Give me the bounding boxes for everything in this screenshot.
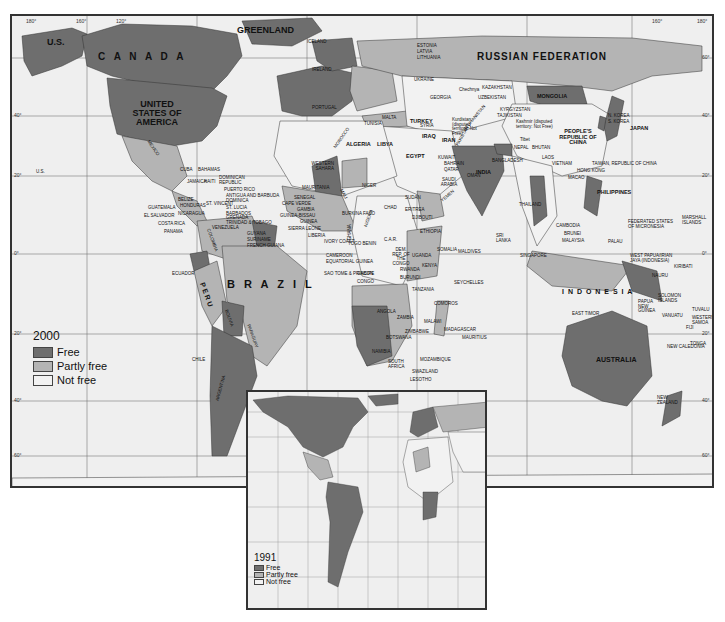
label-estonia: ESTONIA xyxy=(417,44,437,49)
legend-label: Partly free xyxy=(57,360,107,372)
label-kiribati: KIRIBATI xyxy=(674,265,692,270)
label-namibia: NAMIBIA xyxy=(372,350,391,355)
lat-tick: 0° xyxy=(14,250,19,256)
label-botswana: BOTSWANA xyxy=(386,336,412,341)
label-niger: NIGER xyxy=(362,184,376,189)
legend-label: Free xyxy=(57,346,80,358)
label-marshall-islands: MARSHALL ISLANDS xyxy=(682,216,706,225)
label-swaziland: SWAZILAND xyxy=(412,370,438,375)
label-iceland: ICELAND xyxy=(307,40,327,45)
label-kazakhstan: KAZAKHSTAN xyxy=(482,86,512,91)
label-east-timor: EAST TIMOR xyxy=(572,312,599,317)
label-ireland: IRELAND xyxy=(312,68,332,73)
label-south-africa: SOUTH AFRICA xyxy=(388,360,406,369)
legend-item-free: Free xyxy=(254,564,298,571)
lat-tick: 40° xyxy=(14,397,22,403)
swatch-free xyxy=(33,347,53,358)
label-lesotho: LESOTHO xyxy=(410,378,432,383)
lat-tick: 40° xyxy=(702,397,710,403)
inset-map-1991: 1991 Free Partly free Not free xyxy=(246,390,487,610)
label-n-korea: N. KOREA xyxy=(608,114,630,119)
lon-tick: 180° xyxy=(26,18,36,24)
legend-label: Partly free xyxy=(266,571,298,578)
bolivia xyxy=(222,301,244,336)
label-togo-benin: TOGO BENIN xyxy=(348,242,376,247)
label-congo: CONGO xyxy=(357,280,374,285)
label-vanuatu: VANUATU xyxy=(662,314,683,319)
label-tajikistan: TAJIKISTAN xyxy=(497,114,522,119)
label-georgia: GEORGIA xyxy=(430,96,451,101)
label-solomon-islands: SOLOMON ISLANDS xyxy=(658,294,680,303)
label-guatemala: GUATEMALA xyxy=(148,206,175,211)
label-australia: AUSTRALIA xyxy=(596,356,636,363)
lon-tick: 180° xyxy=(697,18,707,24)
label-somalia: SOMALIA xyxy=(437,248,457,253)
label-vietnam: VIETNAM xyxy=(552,162,572,167)
label-guinea: GUINEA xyxy=(300,220,317,225)
label-puerto-rico: PUERTO RICO xyxy=(224,188,255,193)
label-french-guiana: FRENCH GUIANA xyxy=(247,244,284,249)
label-gambia: GAMBIA xyxy=(297,208,315,213)
label-west-papua: WEST PAPUA/IRIAN JAYA (INDONESIA) xyxy=(630,254,680,263)
label-ethiopia: ETHIOPIA xyxy=(420,230,441,235)
label-us-hawaii: U.S. xyxy=(36,170,45,175)
lon-tick: 160° xyxy=(652,18,662,24)
label-sri-lanka: SRI LANKA xyxy=(496,234,510,243)
label-venezuela: VENEZUELA xyxy=(212,226,239,231)
label-libya: LIBYA xyxy=(377,142,393,148)
label-malawi: MALAWI xyxy=(424,320,442,325)
label-ghana: GHANA xyxy=(348,224,353,240)
label-new-zealand: NEW ZEALAND xyxy=(657,396,683,405)
label-st-lucia: ST. LUCIA xyxy=(226,206,247,211)
label-kenya: KENYA xyxy=(422,264,437,269)
swatch-not-free xyxy=(254,579,264,585)
label-nepal: NEPAL xyxy=(514,146,528,151)
label-png: PAPUA NEW GUINEA xyxy=(638,300,660,314)
label-fiji: FIJI xyxy=(686,326,694,331)
label-nauru: NAURU xyxy=(652,274,668,279)
swatch-partly-free xyxy=(33,361,53,372)
label-drc: DEM. REP. OF THE CONGO xyxy=(390,248,412,266)
philippines xyxy=(584,176,602,216)
lat-tick: 20° xyxy=(702,172,710,178)
label-bahrain: BAHRAIN xyxy=(444,162,464,167)
label-thailand: THAILAND xyxy=(519,203,541,208)
label-mauritius: MAURITIUS xyxy=(462,336,487,341)
lat-tick: 20° xyxy=(702,330,710,336)
label-western-samoa: WESTERN SAMOA xyxy=(692,316,712,325)
label-taiwan: TAIWAN, REPUBLIC OF CHINA xyxy=(592,162,657,167)
label-s-korea: S. KOREA xyxy=(608,120,629,125)
label-guyana: GUYANA xyxy=(247,232,266,237)
label-dominican-republic: DOMINICAN REPUBLIC xyxy=(219,176,249,185)
label-malta: MALTA xyxy=(382,116,396,121)
legend-item-not-free: Not free xyxy=(33,374,107,386)
label-eritrea: ERITREA xyxy=(405,208,425,213)
label-usa: UNITED STATES OF AMERICA xyxy=(122,100,192,127)
swatch-not-free xyxy=(33,375,53,386)
papua xyxy=(622,261,662,301)
legend-item-partly-free: Partly free xyxy=(33,360,107,372)
label-bhutan: BHUTAN xyxy=(532,146,550,151)
label-kyrgyzstan: KYRGYZSTAN xyxy=(500,108,530,113)
label-syria: SYRIA xyxy=(420,124,434,129)
label-ukraine: UKRAINE xyxy=(414,78,434,83)
label-egypt: EGYPT xyxy=(406,154,425,160)
label-mongolia: MONGOLIA xyxy=(537,94,567,100)
lat-tick: 20° xyxy=(14,172,22,178)
label-philippines: PHILIPPINES xyxy=(597,190,631,196)
label-sudan: SUDAN xyxy=(405,196,421,201)
swatch-free xyxy=(254,565,264,571)
legend-label: Free xyxy=(266,564,280,571)
label-malaysia: MALAYSIA xyxy=(562,239,584,244)
label-china: PEOPLE'S REPUBLIC OF CHINA xyxy=(558,129,598,146)
label-brunei: BRUNEI xyxy=(564,232,581,237)
legend-item-partly-free: Partly free xyxy=(254,571,298,578)
label-st-vincent: ST. VINCENT xyxy=(206,202,234,207)
label-greenland: GREENLAND xyxy=(237,26,294,35)
label-cuba: CUBA xyxy=(180,168,193,173)
label-laos: LAOS xyxy=(542,156,554,161)
legend-2000: 2000 Free Partly free Not free xyxy=(33,329,107,388)
label-cameroon: CAMEROON xyxy=(326,254,353,259)
label-nicaragua: NICARAGUA xyxy=(178,212,205,217)
label-lithuania: LITHUANIA xyxy=(417,56,441,61)
